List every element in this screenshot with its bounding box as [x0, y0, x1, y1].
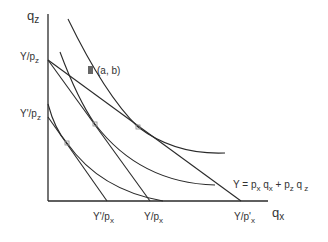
point-a-b-label: (a, b) [97, 66, 120, 76]
tick-base: Y/p [20, 51, 35, 62]
tick-sub: x [110, 216, 114, 225]
eq-part: q [294, 179, 302, 190]
budget-line-original [48, 60, 150, 201]
eq-part: Y = p [233, 179, 256, 190]
y-axis-label-sub: z [34, 14, 39, 25]
tick-sub: x [159, 216, 163, 225]
tick-base: Y'/p [20, 108, 37, 119]
y-tick-income-over-pz: Y/pz [20, 52, 39, 65]
y-axis-label: qz [27, 9, 39, 25]
y-tick-comp-income-over-pz: Y'/pz [20, 109, 41, 122]
x-tick-comp-income-over-px: Y'/px [93, 212, 114, 225]
tick-base: Y/p' [234, 211, 251, 222]
tick-sub: x [251, 216, 255, 225]
tick-sub: z [35, 56, 39, 65]
indifference-curve-low [48, 104, 163, 201]
budget-equation: Y = px qx + pz q z [233, 180, 308, 193]
point-a-b-marker [88, 66, 93, 74]
budget-line-new-price [48, 60, 241, 201]
eq-sub: z [302, 184, 308, 193]
eq-part: q [260, 179, 268, 190]
x-axis-label-sub: x [279, 211, 284, 222]
x-tick-income-over-new-px: Y/p'x [234, 212, 255, 225]
tick-base: Y'/p [93, 211, 110, 222]
budget-indifference-diagram: qz qx Y/pz Y'/pz Y'/px Y/px Y/p'x (a, b)… [0, 0, 328, 242]
tick-sub: z [37, 113, 41, 122]
indifference-curve-high [68, 19, 225, 153]
tick-base: Y/p [144, 211, 159, 222]
eq-part: + p [273, 179, 290, 190]
x-axis-label: qx [272, 206, 284, 222]
x-tick-income-over-px: Y/px [144, 212, 163, 225]
